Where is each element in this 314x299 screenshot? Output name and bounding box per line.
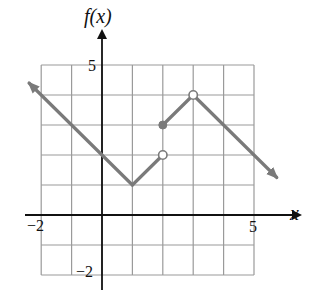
- open-circle-point: [189, 91, 197, 99]
- curve-segment-1: [29, 83, 132, 185]
- y-tick-label-neg2: −2: [76, 264, 93, 280]
- y-tick-label-5: 5: [88, 58, 96, 74]
- function-curve: [29, 83, 277, 185]
- curve-segment-2: [132, 155, 162, 185]
- curve-segment-3: [163, 95, 193, 125]
- x-tick-label-neg2: −2: [27, 218, 44, 234]
- y-axis-label: f(x): [84, 6, 112, 26]
- curve-segment-4: [193, 95, 277, 178]
- function-graph: [0, 0, 314, 299]
- open-circle-point: [159, 151, 167, 159]
- x-axis-label: x: [290, 203, 299, 223]
- x-tick-label-5: 5: [249, 219, 257, 235]
- closed-dot-point: [159, 121, 167, 129]
